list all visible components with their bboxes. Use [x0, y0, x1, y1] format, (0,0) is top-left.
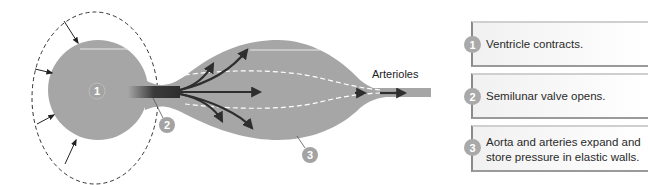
- step-2: 2 Semilunar valve opens.: [471, 73, 648, 119]
- step-text-3-line2: store pressure in elastic walls.: [486, 150, 641, 165]
- step-1: 1 Ventricle contracts.: [471, 21, 648, 67]
- blood-jet: [128, 86, 180, 98]
- step-text-3-line1: Aorta and arteries expand and: [486, 135, 641, 150]
- step-text-3: Aorta and arteries expand and store pres…: [486, 135, 641, 165]
- step-text-2: Semilunar valve opens.: [486, 89, 606, 104]
- marker-3: 3: [302, 147, 318, 163]
- svg-text:1: 1: [94, 85, 100, 97]
- marker-2: 2: [159, 117, 175, 133]
- arterioles-label: Arterioles: [372, 68, 419, 80]
- marker-1: 1: [89, 83, 105, 99]
- step-number-1: 1: [464, 36, 481, 53]
- svg-text:2: 2: [164, 119, 170, 131]
- step-number-3: 3: [464, 139, 481, 156]
- step-3: 3 Aorta and arteries expand and store pr…: [471, 125, 648, 172]
- step-number-2: 2: [464, 88, 481, 105]
- step-text-1: Ventricle contracts.: [486, 37, 583, 52]
- svg-text:3: 3: [307, 149, 313, 161]
